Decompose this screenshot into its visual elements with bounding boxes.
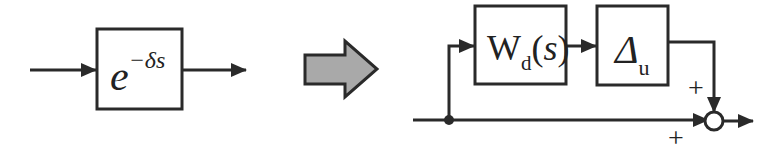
delay-base: e	[110, 53, 129, 99]
weight-variable: s	[543, 28, 557, 68]
delay-exponent: −δs	[129, 47, 166, 73]
weight-close-paren: )	[558, 28, 570, 68]
transform-arrow-icon	[305, 41, 377, 97]
sum-sign-bottom: +	[668, 122, 684, 154]
weight-block-label: Wd(s)	[487, 27, 570, 69]
delay-block-label: e−δs	[110, 52, 165, 100]
delta-block-label: Δu	[615, 26, 649, 73]
weight-main: W	[487, 28, 521, 68]
delta-subscript: u	[638, 55, 649, 80]
branch-to-weight-arrow	[449, 46, 474, 120]
weight-open-paren: (	[531, 28, 543, 68]
uncertainty-model-diagram	[413, 6, 753, 130]
weight-subscript: d	[521, 51, 532, 75]
delta-main: Δ	[615, 27, 638, 72]
summing-junction	[705, 112, 723, 130]
sum-sign-top: +	[688, 72, 704, 104]
